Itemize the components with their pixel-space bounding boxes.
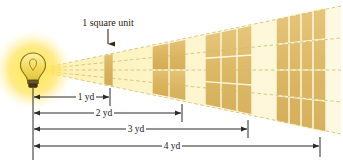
callout-1-square-unit: 1 square unit <box>82 17 134 44</box>
light-source-group <box>0 28 75 112</box>
bulb-screw-base <box>28 80 39 84</box>
dimension-label-1yd: 1 yd <box>78 92 95 102</box>
panel-tile <box>169 70 186 101</box>
inverse-square-law-figure: 1 square unit 1 yd 2 yd <box>0 0 343 164</box>
dimension-2yd: 2 yd <box>34 104 182 122</box>
dimension-label-3yd: 3 yd <box>128 124 145 134</box>
dimension-3yd: 3 yd <box>34 120 248 138</box>
callout-label: 1 square unit <box>82 17 134 28</box>
panel-tile <box>169 39 186 70</box>
dimension-label-2yd: 2 yd <box>96 108 113 118</box>
dimension-4yd: 4 yd <box>34 137 320 157</box>
bulb-contact-base <box>29 84 38 87</box>
dimension-label-4yd: 4 yd <box>164 141 181 151</box>
panel-tile <box>152 43 169 71</box>
panel-tile <box>152 70 169 98</box>
diagram-canvas: 1 square unit 1 yd 2 yd <box>0 0 343 164</box>
